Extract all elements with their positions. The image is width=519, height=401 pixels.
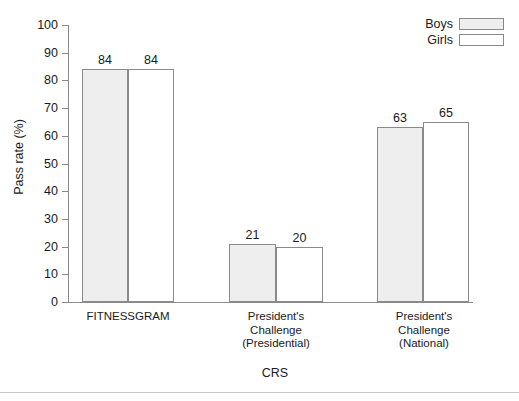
y-tick-label-40: 40: [24, 185, 58, 198]
y-tick-60: [62, 136, 68, 137]
y-tick-label-70: 70: [24, 102, 58, 115]
y-tick-80: [62, 80, 68, 81]
y-tick-label-100: 100: [24, 19, 58, 32]
category-label-1: President's Challenge (Presidential): [206, 310, 346, 351]
y-tick-30: [62, 219, 68, 220]
y-axis-line: [68, 25, 69, 302]
legend-label-boys: Boys: [425, 18, 453, 31]
y-tick-label-10: 10: [24, 268, 58, 281]
legend: Boys Girls: [400, 16, 504, 48]
y-tick-label-50: 50: [24, 158, 58, 171]
legend-swatch-boys-icon: [459, 18, 504, 30]
y-tick-10: [62, 274, 68, 275]
y-tick-100: [62, 25, 68, 26]
y-tick-0: [62, 302, 68, 303]
category-label-2: President's Challenge (National): [354, 310, 494, 351]
y-tick-20: [62, 247, 68, 248]
bar-girls-1: [276, 247, 323, 302]
legend-label-girls: Girls: [427, 34, 453, 47]
y-tick-label-90: 90: [24, 47, 58, 60]
legend-item-girls: Girls: [400, 32, 504, 48]
bar-value-label-boys-0: 84: [82, 54, 128, 67]
category-label-0: FITNESSGRAM: [58, 310, 198, 324]
y-tick-70: [62, 108, 68, 109]
y-axis-title: Pass rate (%): [12, 97, 26, 217]
bar-value-label-girls-0: 84: [128, 54, 174, 67]
y-tick-label-60: 60: [24, 130, 58, 143]
bar-boys-2: [377, 127, 423, 302]
y-tick-50: [62, 164, 68, 165]
figure-container: 0102030405060708090100 Pass rate (%) 848…: [0, 0, 519, 401]
bar-value-label-girls-1: 20: [276, 232, 323, 245]
legend-swatch-girls-icon: [459, 34, 504, 46]
bar-value-label-girls-2: 65: [423, 107, 469, 120]
legend-item-boys: Boys: [400, 16, 504, 32]
y-tick-label-80: 80: [24, 74, 58, 87]
bar-boys-1: [229, 244, 276, 302]
bar-boys-0: [82, 69, 128, 302]
bar-value-label-boys-1: 21: [229, 229, 276, 242]
y-tick-label-30: 30: [24, 213, 58, 226]
bar-girls-0: [128, 69, 174, 302]
x-axis-title: CRS: [230, 366, 320, 380]
bar-girls-2: [423, 122, 469, 302]
plot-area: 0102030405060708090100 Pass rate (%) 848…: [0, 0, 519, 401]
page-bottom-rule: [0, 392, 519, 393]
x-axis-line: [68, 302, 473, 303]
bar-value-label-boys-2: 63: [377, 112, 423, 125]
y-tick-label-0: 0: [24, 296, 58, 309]
y-tick-label-20: 20: [24, 241, 58, 254]
y-tick-90: [62, 53, 68, 54]
y-tick-40: [62, 191, 68, 192]
